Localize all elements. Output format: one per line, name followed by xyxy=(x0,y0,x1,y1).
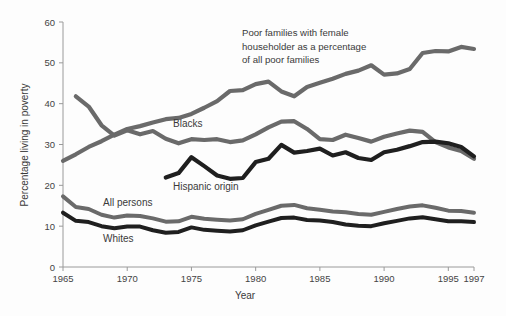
y-tick-label: 60 xyxy=(44,17,55,28)
y-axis-title: Percentage living in poverty xyxy=(19,84,30,207)
female-householder-annotation-line: of all poor families xyxy=(242,54,320,65)
x-tick-label: 1975 xyxy=(181,273,202,284)
x-tick-label: 1997 xyxy=(463,273,484,284)
y-tick-label: 30 xyxy=(44,139,55,150)
x-tick-label: 1985 xyxy=(309,273,330,284)
y-tick-label: 20 xyxy=(44,180,55,191)
annotation-layer: Poor families with femalehouseholder as … xyxy=(242,27,366,65)
y-tick-label: 10 xyxy=(44,221,55,232)
x-axis-ticks: 19651970197519801985199019951997 xyxy=(52,267,484,284)
x-tick-label: 1970 xyxy=(117,273,138,284)
x-tick-label: 1995 xyxy=(438,273,459,284)
female-householder-annotation-line: Poor families with female xyxy=(242,27,349,38)
y-tick-label: 40 xyxy=(44,98,55,109)
x-tick-label: 1980 xyxy=(245,273,266,284)
y-axis-ticks: 0102030405060 xyxy=(44,17,63,273)
series-label: Hispanic origin xyxy=(173,181,239,192)
series-line xyxy=(166,142,474,179)
series-label: Blacks xyxy=(173,118,202,129)
series-label: All persons xyxy=(103,197,152,208)
y-tick-label: 50 xyxy=(44,57,55,68)
poverty-line-chart: 0102030405060 19651970197519801985199019… xyxy=(0,0,506,316)
x-tick-label: 1965 xyxy=(52,273,73,284)
x-axis-title: Year xyxy=(235,290,256,301)
female-householder-annotation-line: householder as a percentage xyxy=(242,41,366,52)
x-tick-label: 1990 xyxy=(374,273,395,284)
series-label: Whites xyxy=(103,233,134,244)
chart-page: 0102030405060 19651970197519801985199019… xyxy=(0,0,506,316)
y-tick-label: 0 xyxy=(50,262,55,273)
